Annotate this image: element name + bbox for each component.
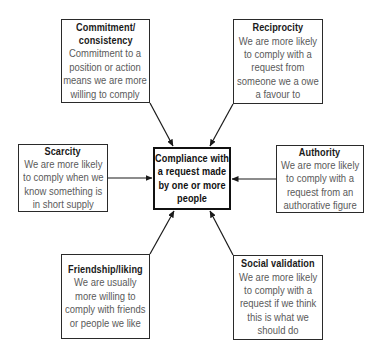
desc-line: means we are more (64, 74, 148, 87)
desc-line: request from (237, 61, 319, 74)
desc-line: know something is (23, 185, 104, 198)
factor-box-authority: Authority We are more likely to comply w… (276, 145, 364, 213)
arrow-reciprocity-to-center (210, 104, 233, 146)
factor-title: Authority (299, 146, 340, 159)
factor-title: Social validation (241, 257, 315, 270)
desc-line: We are more likely (281, 159, 359, 172)
desc-line: a favour to (237, 88, 319, 101)
desc-line: We are more likely (237, 35, 319, 48)
desc-line: or people we like (65, 317, 146, 330)
center-line: Compliance with (155, 152, 229, 165)
factor-title: Reciprocity (253, 21, 304, 34)
center-box-compliance: Compliance with a request made by one or… (153, 147, 231, 210)
desc-line: to comply when we (23, 171, 104, 184)
title-line: consistency (76, 34, 135, 47)
desc-line: should do (239, 324, 317, 337)
factor-box-scarcity: Scarcity We are more likely to comply wh… (18, 144, 108, 212)
arrow-friendship-to-center (150, 211, 174, 254)
factor-description: We are more likely to comply when we kno… (23, 158, 104, 212)
desc-line: comply with friends (65, 303, 146, 316)
factor-description: We are more likely to comply with a requ… (239, 271, 317, 338)
desc-line: request if we think (239, 297, 317, 310)
desc-line: to comply with a (281, 172, 359, 185)
desc-line: We are more likely (23, 158, 104, 171)
factor-box-social-validation: Social validation We are more likely to … (233, 255, 323, 340)
factor-title: Scarcity (45, 145, 81, 158)
desc-line: in short supply (23, 198, 104, 211)
center-line: by one or more (155, 179, 229, 192)
center-line: people (155, 192, 229, 205)
arrow-commitment-to-center (150, 103, 173, 146)
title-line: Friendship/liking (68, 263, 143, 276)
factor-description: We are usually more willing to comply wi… (65, 276, 146, 330)
desc-line: to comply with a (237, 48, 319, 61)
factor-description: We are more likely to comply with a requ… (237, 35, 319, 102)
desc-line: to comply with a (239, 284, 317, 297)
title-line: Reciprocity (253, 21, 304, 34)
arrow-social-to-center (210, 211, 233, 255)
desc-line: We are more likely (239, 271, 317, 284)
factor-box-commitment: Commitment/ consistency Commitment to a … (61, 19, 150, 103)
desc-line: authorative figure (281, 199, 359, 212)
desc-line: willing to comply (64, 88, 148, 101)
desc-line: We are usually (65, 276, 146, 289)
title-line: Authority (299, 146, 340, 159)
title-line: Commitment/ (76, 21, 135, 34)
factor-description: Commitment to a position or action means… (64, 47, 148, 101)
desc-line: more willing to (65, 290, 146, 303)
factor-description: We are more likely to comply with a requ… (281, 159, 359, 213)
title-line: Scarcity (45, 145, 81, 158)
center-title: Compliance with a request made by one or… (155, 152, 229, 205)
factor-box-reciprocity: Reciprocity We are more likely to comply… (233, 19, 323, 104)
factor-title: Commitment/ consistency (76, 21, 135, 47)
factor-title: Friendship/liking (68, 263, 143, 276)
desc-line: someone we a owe (237, 75, 319, 88)
factor-box-friendship: Friendship/liking We are usually more wi… (61, 254, 150, 339)
title-line: Social validation (241, 257, 315, 270)
desc-line: this is what we (239, 311, 317, 324)
desc-line: position or action (64, 61, 148, 74)
desc-line: request from an (281, 186, 359, 199)
center-line: a request made (155, 165, 229, 178)
desc-line: Commitment to a (64, 47, 148, 60)
